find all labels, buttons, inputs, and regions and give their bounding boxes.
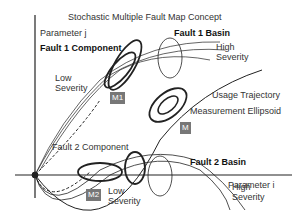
fault1-component-label: Fault 1 Component [40, 43, 122, 53]
fault1-high-severity-label: Severity [216, 52, 249, 62]
diagram-title: Stochastic Multiple Fault Map Concept [68, 12, 222, 22]
fault2-high-label: High [232, 182, 251, 192]
y-axis-label: Parameter j [40, 28, 87, 38]
fault1-low-label: Low [55, 73, 72, 83]
measurement-ellipsoid-label: Measurement Ellipsoid [190, 106, 281, 116]
m1-marker: M1 [110, 92, 125, 104]
diagram: Stochastic Multiple Fault Map Concept Pa… [0, 0, 295, 224]
fault1-high-label: High [216, 42, 235, 52]
fault2-component-label: Fault 2 Component [52, 142, 129, 152]
m-marker: M [180, 122, 191, 134]
m2-marker: M2 [86, 189, 101, 201]
fault2-high-severity-label: Severity [232, 192, 265, 202]
fault2-low-label: Low [108, 186, 125, 196]
fault2-low-severity-label: Severity [108, 196, 141, 206]
fault2-basin-label: Fault 2 Basin [190, 157, 246, 167]
usage-trajectory-label: Usage Trajectory [212, 90, 280, 100]
fault1-low-severity-label: Severity [55, 83, 88, 93]
fault1-basin-label: Fault 1 Basin [174, 28, 230, 38]
